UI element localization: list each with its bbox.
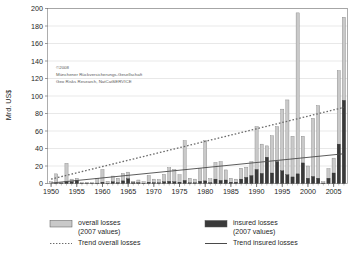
bar-group-2000 bbox=[306, 166, 309, 184]
bar-overall-1960 bbox=[101, 170, 104, 184]
x-tick-1970: 1970 bbox=[146, 187, 162, 196]
bar-group-1977 bbox=[188, 178, 191, 183]
bar-group-1994 bbox=[276, 127, 279, 184]
bar-insured-1960 bbox=[101, 182, 104, 183]
bar-insured-1974 bbox=[173, 182, 176, 184]
bar-group-1980 bbox=[204, 141, 207, 184]
bar-insured-1954 bbox=[70, 182, 73, 184]
credit-line-1: ©2008 bbox=[56, 65, 70, 70]
bar-insured-1989 bbox=[250, 176, 253, 184]
bar-insured-2000 bbox=[306, 178, 309, 183]
bar-group-2005 bbox=[332, 158, 335, 183]
x-tick-1980: 1980 bbox=[197, 187, 213, 196]
bar-insured-1985 bbox=[229, 182, 232, 183]
bar-insured-2004 bbox=[327, 178, 330, 183]
bar-group-1960 bbox=[101, 170, 104, 184]
bar-group-1991 bbox=[260, 144, 263, 183]
bar-group-1985 bbox=[229, 178, 232, 183]
bar-overall-1980 bbox=[204, 141, 207, 184]
y-tick-100: 100 bbox=[31, 92, 43, 101]
bar-group-1992 bbox=[265, 146, 268, 184]
bar-insured-1964 bbox=[121, 181, 124, 184]
bar-group-1999 bbox=[301, 136, 304, 183]
y-tick-40: 40 bbox=[35, 144, 43, 153]
bar-overall-2001 bbox=[311, 118, 314, 183]
x-tick-1960: 1960 bbox=[94, 187, 110, 196]
bar-insured-2002 bbox=[317, 178, 320, 183]
bar-insured-1972 bbox=[163, 182, 166, 184]
natural-catastrophe-losses-chart: 200180160140120100806040200 195019551960… bbox=[0, 0, 354, 257]
bar-insured-1977 bbox=[188, 183, 191, 184]
bar-group-1972 bbox=[163, 174, 166, 183]
x-tick-2000: 2000 bbox=[300, 187, 316, 196]
bar-group-2001 bbox=[311, 118, 314, 183]
bar-insured-1983 bbox=[219, 180, 222, 183]
bar-group-1984 bbox=[224, 170, 227, 184]
bar-insured-2006 bbox=[337, 144, 340, 183]
y-tick-160: 160 bbox=[31, 39, 43, 48]
bar-group-1957 bbox=[85, 182, 88, 183]
y-axis-title: Mrd. US$ bbox=[4, 90, 13, 120]
bar-group-1993 bbox=[270, 136, 273, 184]
x-tick-1985: 1985 bbox=[223, 187, 239, 196]
bar-insured-1986 bbox=[234, 182, 237, 183]
x-tick-1975: 1975 bbox=[172, 187, 188, 196]
bar-overall-1997 bbox=[291, 136, 294, 183]
bar-group-1953 bbox=[65, 163, 68, 183]
bar-group-1996 bbox=[286, 100, 289, 184]
bar-group-1983 bbox=[219, 162, 222, 184]
x-tick-1990: 1990 bbox=[249, 187, 265, 196]
bar-group-1974 bbox=[173, 170, 176, 184]
bar-group-1990 bbox=[255, 127, 258, 184]
bar-group-1975 bbox=[178, 175, 181, 184]
legend-label-3: Trend insured losses bbox=[233, 239, 298, 246]
bar-group-1979 bbox=[198, 169, 201, 184]
bar-insured-1979 bbox=[198, 181, 201, 183]
y-tick-180: 180 bbox=[31, 22, 43, 31]
bar-overall-1996 bbox=[286, 100, 289, 184]
bar-group-1970 bbox=[152, 179, 155, 183]
bar-insured-1971 bbox=[157, 183, 160, 184]
chart-background bbox=[0, 0, 354, 257]
bar-overall-1983 bbox=[219, 162, 222, 184]
bar-group-1987 bbox=[240, 168, 243, 183]
legend-label-1: insured losses bbox=[233, 219, 278, 226]
bar-group-1997 bbox=[291, 136, 294, 183]
bar-group-1959 bbox=[96, 179, 99, 184]
y-tick-120: 120 bbox=[31, 74, 43, 83]
y-tick-200: 200 bbox=[31, 4, 43, 13]
bar-group-1965 bbox=[127, 172, 130, 183]
bar-insured-1998 bbox=[296, 174, 299, 184]
bar-group-1956 bbox=[80, 183, 83, 184]
bar-insured-1984 bbox=[224, 180, 227, 184]
bar-group-1967 bbox=[137, 180, 140, 184]
bar-overall-1959 bbox=[96, 179, 99, 184]
bar-insured-1988 bbox=[245, 177, 248, 183]
bar-group-1995 bbox=[281, 109, 284, 183]
bar-group-1971 bbox=[157, 180, 160, 184]
bar-group-2006 bbox=[337, 71, 340, 184]
bar-insured-1973 bbox=[168, 181, 171, 183]
y-tick-60: 60 bbox=[35, 127, 43, 136]
bar-overall-1953 bbox=[65, 163, 68, 183]
bar-overall-1974 bbox=[173, 170, 176, 184]
bar-insured-1997 bbox=[291, 177, 294, 184]
bar-group-1966 bbox=[132, 181, 135, 183]
legend-label-2: Trend overall losses bbox=[78, 239, 141, 246]
x-tick-1955: 1955 bbox=[69, 187, 85, 196]
bar-group-1969 bbox=[147, 176, 150, 184]
bar-group-1982 bbox=[214, 163, 217, 184]
chart-figure: 200180160140120100806040200 195019551960… bbox=[0, 0, 354, 257]
bar-insured-1962 bbox=[111, 182, 114, 184]
bar-insured-1981 bbox=[209, 183, 212, 184]
x-tick-1965: 1965 bbox=[120, 187, 136, 196]
bar-group-2007 bbox=[342, 17, 345, 183]
bar-insured-1990 bbox=[255, 170, 258, 184]
bar-insured-1966 bbox=[132, 183, 135, 184]
y-tick-140: 140 bbox=[31, 57, 43, 66]
bar-insured-1965 bbox=[127, 179, 130, 184]
bar-insured-1975 bbox=[178, 182, 181, 183]
bar-insured-1996 bbox=[286, 175, 289, 184]
bar-insured-1991 bbox=[260, 173, 263, 183]
bar-group-1968 bbox=[142, 182, 145, 184]
